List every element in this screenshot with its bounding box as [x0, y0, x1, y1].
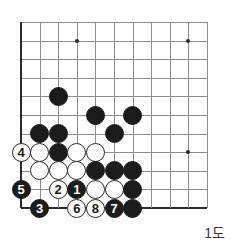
move-number: 2 — [55, 182, 62, 195]
move-stone-6: 6 — [67, 199, 86, 218]
grid-line-vertical — [207, 22, 208, 208]
grid-line-vertical — [170, 22, 171, 208]
move-number: 8 — [92, 201, 99, 214]
stone-black — [123, 199, 142, 218]
go-diagram-figure: 45213687 1도 — [0, 0, 231, 245]
stone-white — [30, 161, 49, 180]
stone-black — [49, 87, 68, 106]
move-stone-7: 7 — [105, 199, 124, 218]
figure-caption: 1도 — [204, 222, 225, 242]
stone-black — [105, 161, 124, 180]
stone-white — [67, 143, 86, 162]
move-stone-8: 8 — [86, 199, 105, 218]
go-board: 45213687 — [0, 0, 231, 245]
move-stone-3: 3 — [30, 199, 49, 218]
star-point — [75, 39, 79, 43]
grid-line-vertical — [40, 22, 41, 208]
stone-white — [105, 180, 124, 199]
move-number: 4 — [17, 145, 24, 158]
stone-black — [86, 106, 105, 125]
stone-black — [49, 124, 68, 143]
stone-white — [86, 180, 105, 199]
move-stone-1: 1 — [67, 180, 86, 199]
move-number: 3 — [36, 201, 43, 214]
move-number: 7 — [110, 201, 117, 214]
move-number: 5 — [17, 182, 24, 195]
star-point — [186, 39, 190, 43]
move-number: 1 — [73, 182, 80, 195]
move-stone-2: 2 — [49, 180, 68, 199]
stone-white — [30, 143, 49, 162]
stone-black — [123, 180, 142, 199]
stone-black — [49, 143, 68, 162]
stone-black — [30, 124, 49, 143]
move-stone-5: 5 — [12, 180, 31, 199]
stone-white — [67, 161, 86, 180]
grid-line-vertical — [188, 22, 189, 208]
stone-black — [123, 161, 142, 180]
stone-black — [123, 106, 142, 125]
move-stone-4: 4 — [12, 143, 31, 162]
stone-white — [86, 143, 105, 162]
move-number: 6 — [73, 201, 80, 214]
stone-black — [105, 124, 124, 143]
stone-black — [86, 161, 105, 180]
grid-line-vertical — [151, 22, 152, 208]
star-point — [186, 150, 190, 154]
stone-white — [49, 161, 68, 180]
